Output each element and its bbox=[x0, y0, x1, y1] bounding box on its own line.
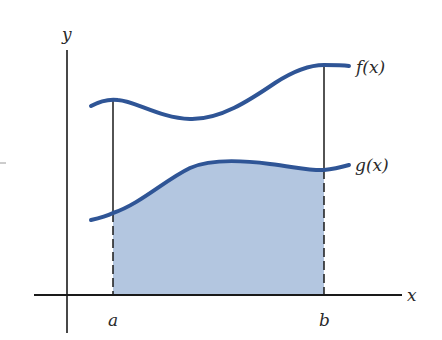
x-axis-label: x bbox=[407, 285, 417, 305]
area-diagram: y x a b f(x) g(x) bbox=[0, 0, 442, 340]
g-curve-label: g(x) bbox=[355, 155, 389, 175]
f-curve-label: f(x) bbox=[354, 57, 385, 77]
f-curve bbox=[91, 65, 349, 119]
y-axis-label: y bbox=[61, 24, 72, 44]
shaded-area-under-g bbox=[113, 161, 324, 295]
b-label: b bbox=[319, 310, 330, 330]
a-label: a bbox=[108, 310, 118, 330]
